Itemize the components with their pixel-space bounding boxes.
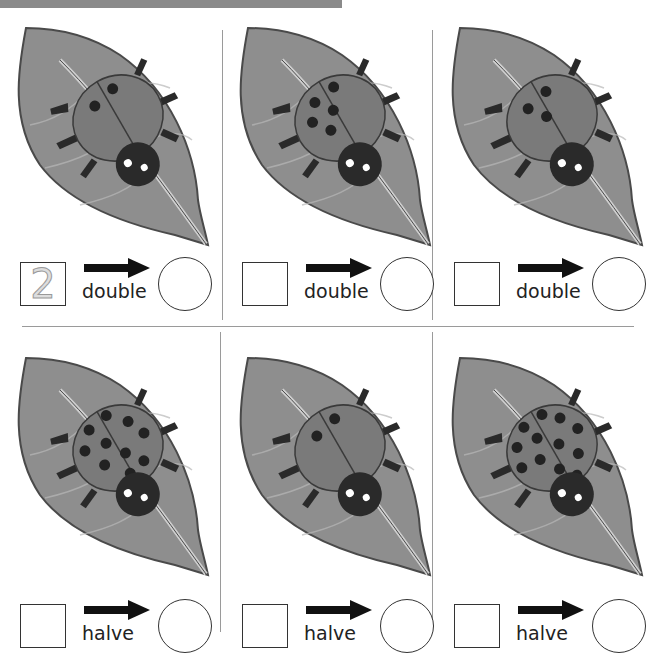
operation-label: halve (304, 622, 356, 644)
operation-label: double (304, 280, 369, 302)
problem-cell: double (434, 0, 652, 318)
operation-label: halve (516, 622, 568, 644)
start-number-box[interactable] (454, 262, 500, 306)
problem-cell: double (222, 0, 440, 318)
leaf-ladybug-illustration (222, 330, 440, 580)
problem-cell: halve (222, 330, 440, 648)
operation-label: halve (82, 622, 134, 644)
problem-controls: halve (222, 596, 440, 656)
leaf-ladybug-illustration (434, 0, 652, 250)
problem-controls: double (434, 254, 652, 314)
arrow-right-icon (306, 258, 372, 278)
leaf-ladybug-illustration (0, 0, 218, 250)
start-number-box[interactable] (20, 604, 66, 648)
answer-circle[interactable] (380, 257, 434, 311)
answer-circle[interactable] (158, 257, 212, 311)
operation-label: double (82, 280, 147, 302)
leaf-ladybug-illustration (222, 0, 440, 250)
problem-controls: 2 double (0, 254, 218, 314)
start-number-box[interactable] (242, 604, 288, 648)
column-divider (220, 332, 221, 632)
arrow-right-icon (518, 600, 584, 620)
problem-cell: 2 double (0, 0, 218, 318)
arrow-right-icon (84, 258, 150, 278)
answer-circle[interactable] (592, 599, 646, 653)
start-number-box[interactable]: 2 (20, 262, 66, 306)
operation-label: double (516, 280, 581, 302)
arrow-right-icon (306, 600, 372, 620)
start-number-box[interactable] (242, 262, 288, 306)
problem-cell: halve (0, 330, 218, 648)
problem-cell: halve (434, 330, 652, 648)
arrow-right-icon (84, 600, 150, 620)
answer-circle[interactable] (380, 599, 434, 653)
start-number-box[interactable] (454, 604, 500, 648)
arrow-right-icon (518, 258, 584, 278)
problem-controls: halve (434, 596, 652, 656)
row-divider (22, 326, 634, 327)
answer-circle[interactable] (158, 599, 212, 653)
problem-controls: double (222, 254, 440, 314)
leaf-ladybug-illustration (434, 330, 652, 580)
answer-circle[interactable] (592, 257, 646, 311)
problem-controls: halve (0, 596, 218, 656)
leaf-ladybug-illustration (0, 330, 218, 580)
